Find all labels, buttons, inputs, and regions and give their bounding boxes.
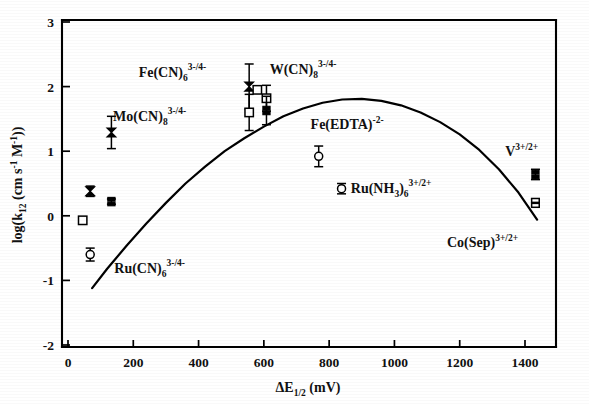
data-point bbox=[531, 169, 540, 179]
x-tick-label: 0 bbox=[65, 355, 72, 370]
marker-open-circle bbox=[338, 185, 346, 193]
data-point bbox=[314, 146, 323, 167]
x-tick-label: 600 bbox=[254, 355, 275, 370]
data-point bbox=[531, 198, 540, 207]
x-axis-title: ΔE1/2 (mV) bbox=[276, 380, 341, 398]
y-tick-label: 0 bbox=[47, 209, 54, 224]
x-tick-label: 400 bbox=[188, 355, 209, 370]
annotation-mocn8: Mo(CN)83-/4- bbox=[113, 106, 186, 127]
annotation-feedta: Fe(EDTA)-2- bbox=[311, 115, 384, 133]
marker-filled-stack-top bbox=[108, 197, 115, 201]
marker-filled-bowtie bbox=[86, 187, 95, 196]
data-point bbox=[78, 216, 86, 224]
x-tick-label: 800 bbox=[319, 355, 340, 370]
y-tick-label: 3 bbox=[47, 15, 54, 30]
x-tick-label: 1400 bbox=[512, 355, 539, 370]
marker-open-square bbox=[78, 216, 86, 224]
marker-filled-stack-top bbox=[532, 170, 539, 174]
marker-open-stack-bottom bbox=[532, 203, 540, 207]
annotation-wcn8: W(CN)83-/4- bbox=[270, 59, 337, 80]
marker-filled-stack-bottom bbox=[108, 202, 115, 206]
data-point bbox=[337, 184, 346, 194]
data-point bbox=[253, 86, 261, 94]
marker-open-stack-top bbox=[532, 198, 540, 202]
y-tick-label: 1 bbox=[47, 144, 54, 159]
y-tick-label: -1 bbox=[43, 273, 54, 288]
y-axis-title: log(k12 (cm s-1 M-1)) bbox=[9, 126, 28, 243]
x-tick-label: 1000 bbox=[381, 355, 408, 370]
marker-filled-stack-top bbox=[263, 106, 270, 110]
annotation-v: V3+/2+ bbox=[505, 142, 538, 159]
data-point bbox=[245, 94, 254, 130]
marker-open-circle bbox=[315, 152, 323, 160]
marker-filled-bowtie bbox=[107, 128, 116, 137]
y-tick-label: -2 bbox=[43, 338, 54, 353]
figure-root: 0200400600800100012001400-2-10123 Ru(CN)… bbox=[0, 0, 589, 404]
annotation-cosep: Co(Sep)3+/2+ bbox=[447, 233, 518, 251]
marker-filled-bowtie bbox=[245, 82, 254, 91]
annotation-rucn6: Ru(CN)63-/4- bbox=[114, 258, 185, 279]
data-points-group bbox=[78, 64, 539, 261]
data-point bbox=[86, 248, 95, 261]
marker-open-square bbox=[253, 86, 261, 94]
marcus-plot-svg: 0200400600800100012001400-2-10123 Ru(CN)… bbox=[0, 0, 589, 404]
data-point bbox=[86, 186, 95, 196]
data-point bbox=[107, 197, 116, 205]
marker-filled-stack-bottom bbox=[532, 175, 539, 179]
marker-open-circle bbox=[86, 251, 94, 259]
annotation-fecn6: Fe(CN)63-/4- bbox=[139, 62, 207, 83]
series-annotations-group: Ru(CN)63-/4-Mo(CN)83-/4-Fe(CN)63-/4-W(CN… bbox=[113, 59, 538, 279]
marker-open-square bbox=[245, 108, 253, 116]
marker-filled-stack-bottom bbox=[263, 111, 270, 115]
annotation-runh36: Ru(NH3)63+/2+ bbox=[351, 178, 432, 199]
x-tick-label: 1200 bbox=[446, 355, 473, 370]
x-tick-label: 200 bbox=[123, 355, 144, 370]
y-tick-label: 2 bbox=[47, 80, 54, 95]
